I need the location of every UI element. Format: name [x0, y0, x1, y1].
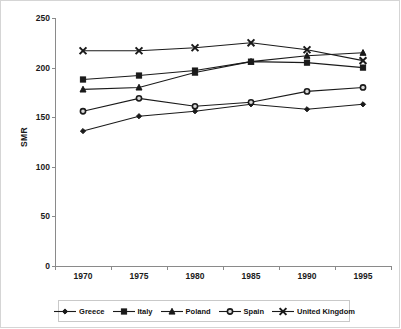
- data-point-diamond-marker: [62, 308, 67, 313]
- x-axis-tick: [111, 266, 112, 270]
- x-axis-tick: [55, 266, 56, 270]
- triangle-legend-icon: [160, 306, 184, 317]
- chart-root: SMR 250200150100500 19701975198019851990…: [0, 0, 401, 329]
- y-axis-tick-labels: 250200150100500: [0, 0, 50, 329]
- y-axis-tick-label: 0: [4, 262, 50, 271]
- legend-item-spain[interactable]: Spain: [218, 306, 264, 317]
- cross-legend-icon: [271, 306, 295, 317]
- x-axis-tick: [279, 266, 280, 270]
- y-axis-tick-label: 100: [4, 163, 50, 172]
- y-axis-tick-label: 50: [4, 212, 50, 221]
- legend-item-label: Italy: [138, 307, 153, 316]
- data-point-circle-marker: [227, 308, 232, 313]
- x-axis-tick-label: 1995: [338, 272, 388, 281]
- y-axis-line: [55, 18, 56, 267]
- legend-item-label: Spain: [244, 307, 264, 316]
- y-axis-tick-label: 200: [4, 64, 50, 73]
- x-axis-tick-label: 1975: [114, 272, 164, 281]
- legend-item-united-kingdom[interactable]: United Kingdom: [271, 306, 355, 317]
- x-axis-tick-label: 1980: [170, 272, 220, 281]
- y-axis-tick-label: 150: [4, 113, 50, 122]
- x-axis-tick: [335, 266, 336, 270]
- legend-item-italy[interactable]: Italy: [112, 306, 153, 317]
- legend-item-poland[interactable]: Poland: [160, 306, 211, 317]
- y-axis-tick-label: 250: [4, 14, 50, 23]
- x-axis-tick-label: 1985: [226, 272, 276, 281]
- chart-legend: GreeceItalyPolandSpainUnited Kingdom: [58, 300, 350, 322]
- x-axis-tick-label: 1990: [282, 272, 332, 281]
- x-axis-tick: [391, 266, 392, 270]
- x-axis-tick: [167, 266, 168, 270]
- x-axis-tick: [223, 266, 224, 270]
- square-legend-icon: [112, 306, 136, 317]
- legend-item-label: United Kingdom: [297, 307, 355, 316]
- legend-item-label: Greece: [79, 307, 104, 316]
- x-axis-tick-label: 1970: [58, 272, 108, 281]
- data-point-square-marker: [121, 308, 126, 313]
- circle-legend-icon: [218, 306, 242, 317]
- legend-item-greece[interactable]: Greece: [53, 306, 104, 317]
- legend-item-label: Poland: [186, 307, 211, 316]
- diamond-legend-icon: [53, 306, 77, 317]
